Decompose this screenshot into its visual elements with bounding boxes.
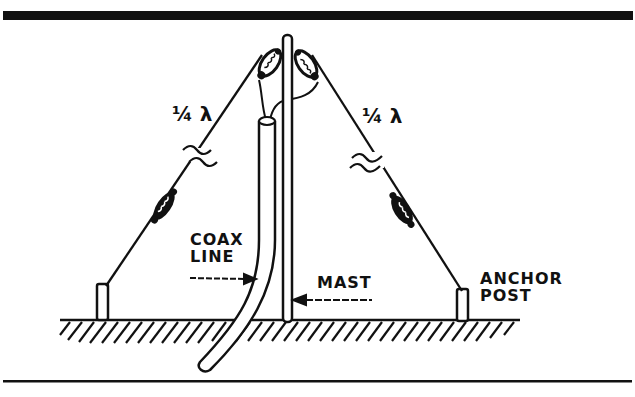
right-wire-length-label: ¼ λ xyxy=(362,106,402,127)
bottom-border-line xyxy=(3,380,632,383)
antenna-diagram xyxy=(0,0,635,397)
left-mid-insulator xyxy=(147,185,182,227)
left-anchor-post xyxy=(97,284,108,320)
right-feed-wire xyxy=(270,82,318,120)
mast-arrow xyxy=(293,295,372,305)
right-radial-wire xyxy=(312,55,462,291)
left-top-insulator xyxy=(253,44,287,83)
coax-line-label: COAX LINE xyxy=(190,232,244,266)
coax-line-label-line2: LINE xyxy=(190,249,244,266)
top-border-bar xyxy=(3,11,633,20)
coax-arrow xyxy=(190,274,256,284)
left-feed-wire xyxy=(259,80,266,120)
right-wire-break xyxy=(350,152,384,172)
mast-label: MAST xyxy=(317,275,372,292)
mast xyxy=(283,35,292,322)
left-wire-length-label: ¼ λ xyxy=(172,104,212,125)
anchor-post-label-line2: POST xyxy=(480,288,563,305)
right-anchor-post xyxy=(457,289,468,321)
anchor-post-label: ANCHOR POST xyxy=(480,271,563,305)
ground xyxy=(60,320,520,343)
